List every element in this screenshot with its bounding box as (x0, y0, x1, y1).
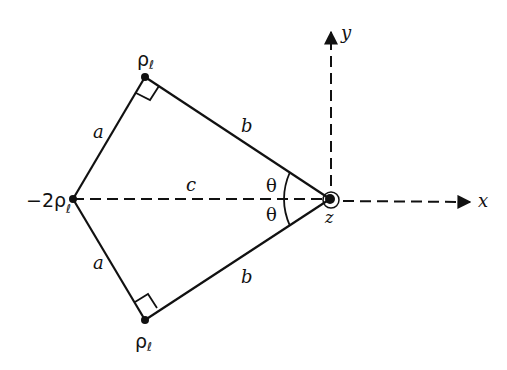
label-segment-a-lower: a (93, 252, 104, 273)
x-axis (343, 201, 470, 202)
label-left-charge: −2ρℓ (26, 189, 71, 216)
segment-b-lower (145, 199, 330, 320)
label-top-charge: ρℓ (137, 48, 154, 72)
label-x-axis: x (478, 190, 488, 211)
label-segment-a-upper: a (93, 121, 104, 142)
point-top-charge (141, 73, 149, 81)
right-angle-marker-bottom (135, 294, 157, 308)
label-segment-b-lower: b (241, 266, 253, 287)
label-theta-lower: θ (266, 204, 277, 225)
label-theta-upper: θ (266, 175, 277, 196)
segment-a-upper (73, 77, 145, 199)
origin-dot (325, 194, 335, 204)
segment-b-upper (145, 77, 330, 199)
charge-geometry-diagram: −2ρℓ ρℓ ρℓ a a b b c θ θ z y x (0, 0, 507, 370)
label-bottom-charge: ρℓ (135, 330, 152, 354)
label-origin-z: z (324, 208, 334, 227)
point-bottom-charge (141, 316, 149, 324)
label-y-axis: y (340, 22, 352, 43)
label-segment-b-upper: b (241, 115, 253, 136)
label-segment-c: c (186, 174, 196, 195)
segment-a-lower (73, 199, 145, 320)
